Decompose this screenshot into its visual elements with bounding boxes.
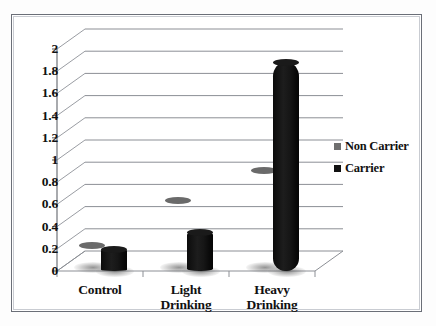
x-axis-category-label-line: Drinking [229, 298, 315, 313]
x-axis-category-label-line: Light [143, 283, 229, 298]
x-axis-category-label-line: Drinking [143, 298, 229, 313]
x-axis-category-label-line: Control [57, 283, 143, 298]
x-axis-category-label: LightDrinking [143, 283, 229, 312]
legend-item-carrier[interactable]: Carrier [334, 161, 422, 176]
x-axis-category-label-line: Heavy [229, 283, 315, 298]
bar-body [187, 232, 213, 271]
legend-swatch-icon [334, 165, 341, 172]
legend-item-non-carrier[interactable]: Non Carrier [334, 139, 422, 154]
chart-frame: 21.81.61.41.210.80.60.40.20 ControlLight… [11, 14, 422, 312]
bar-carrier-light-drinking [187, 232, 213, 271]
legend-label: Carrier [345, 161, 384, 176]
bar-carrier-control [101, 249, 127, 271]
legend-swatch-icon [334, 143, 341, 150]
bar-carrier-heavy-drinking [273, 62, 299, 271]
chart-legend: Non CarrierCarrier [334, 139, 422, 183]
chart-screenshot: 21.81.61.41.210.80.60.40.20 ControlLight… [0, 0, 436, 326]
x-axis-category-label: Control [57, 283, 143, 298]
x-axis-category-label: HeavyDrinking [229, 283, 315, 312]
legend-label: Non Carrier [345, 139, 409, 154]
bar-body [273, 62, 299, 271]
bar-top-cap [101, 246, 127, 253]
